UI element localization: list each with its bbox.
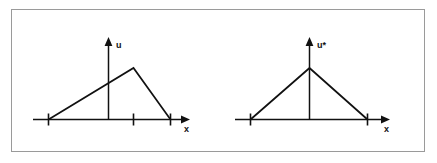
left-panel-y-axis-arrow-icon xyxy=(105,37,113,46)
right-panel-x-axis-arrow-icon xyxy=(381,116,390,124)
right-panel-x-axis-label: x xyxy=(384,124,389,134)
left-panel-x-axis-label: x xyxy=(184,124,189,134)
left-panel-x-axis-arrow-icon xyxy=(181,116,190,124)
left-panel-y-axis-label: u xyxy=(116,40,122,50)
left-panel-profile-curve xyxy=(49,68,171,120)
left-panel: u x xyxy=(33,37,190,134)
right-panel-y-axis-arrow-icon xyxy=(306,37,314,46)
right-panel: u* x xyxy=(235,37,390,134)
figure-canvas: u x u* x xyxy=(0,0,437,163)
right-panel-y-axis-label: u* xyxy=(317,40,326,50)
figure-root: u x u* x xyxy=(0,0,437,163)
